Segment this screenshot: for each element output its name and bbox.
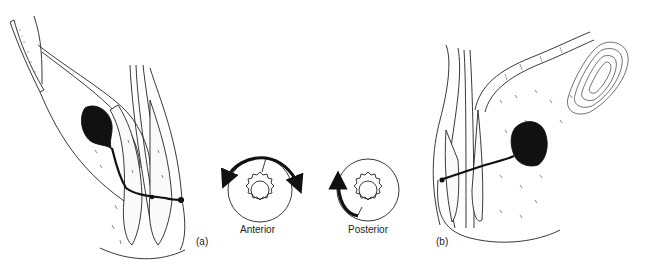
anal-lumen-circle — [359, 181, 377, 199]
anal-canal-outer-circle — [228, 158, 292, 222]
panel-a-illustration — [10, 16, 185, 259]
dentate-line-gear — [354, 172, 382, 200]
panel-a-label: (a) — [196, 236, 208, 247]
anterior-diagram — [226, 158, 298, 222]
panel-b-label: (b) — [436, 236, 448, 247]
anterior-caption: Anterior — [240, 224, 275, 235]
posterior-diagram — [337, 159, 399, 221]
posterior-caption: Posterior — [348, 224, 388, 235]
counterclockwise-arrow-icon — [226, 158, 266, 180]
lamellated-structure — [567, 42, 628, 114]
dentate-line-gear — [246, 172, 274, 200]
figure-canvas — [0, 0, 645, 269]
clockwise-arrow-icon — [266, 158, 298, 185]
anal-lumen-circle — [251, 181, 269, 199]
panel-b-illustration — [433, 32, 628, 242]
